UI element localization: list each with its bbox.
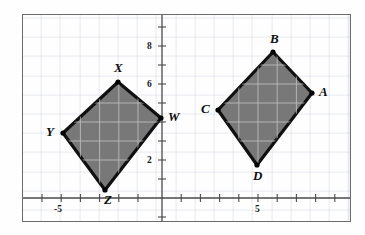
figure-root: W X Y Z A B C D -5 5 2 6 8 [0, 0, 365, 235]
vertex-dot-b [270, 49, 275, 54]
vertex-dot-w [158, 115, 163, 120]
quadrilateral-wxyz-inner-grid [23, 0, 350, 235]
vertex-dot-a [309, 90, 314, 95]
vertex-label-z: Z [104, 193, 112, 206]
quadrilateral-abcd [218, 52, 312, 165]
vertex-dot-d [254, 162, 259, 167]
vertex-label-w: W [168, 110, 180, 123]
quadrilateral-wxyz [63, 82, 161, 190]
vertex-label-y: Y [46, 125, 54, 138]
vertex-label-a: A [319, 85, 328, 98]
quadrilateral-abcd-inner-grid [23, 0, 350, 235]
vertex-dot-x [115, 79, 120, 84]
vertex-label-d: D [253, 169, 262, 182]
x-tick-label-5: 5 [255, 205, 260, 215]
vertex-label-b: B [270, 32, 279, 45]
vertex-label-x: X [114, 61, 123, 74]
y-tick-label-8: 8 [147, 42, 152, 52]
x-tick-label-neg5: -5 [54, 205, 62, 215]
vertex-dot-y [60, 130, 65, 135]
y-tick-label-6: 6 [147, 80, 152, 90]
y-tick-label-2: 2 [147, 156, 152, 166]
coordinate-plot [0, 0, 365, 235]
vertex-dot-c [215, 107, 220, 112]
vertex-label-c: C [201, 102, 210, 115]
